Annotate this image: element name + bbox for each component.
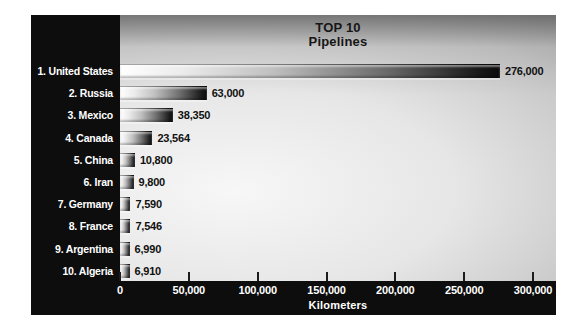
bar-chart: TOP 10 Pipelines 1. United States276,000…	[31, 15, 556, 315]
x-tick-label: 300,000	[514, 284, 552, 296]
bar	[120, 153, 135, 167]
x-tick-label: 50,000	[173, 284, 205, 296]
row-label: 3. Mexico	[31, 109, 120, 121]
bar-row: 3. Mexico38,350	[31, 104, 556, 126]
bar-row: 9. Argentina6,990	[31, 238, 556, 260]
value-label: 7,546	[135, 220, 162, 232]
value-label: 6,990	[135, 243, 162, 255]
value-label: 38,350	[178, 109, 210, 121]
bar	[120, 86, 207, 100]
x-tick-label: 150,000	[307, 284, 345, 296]
x-tick-mark	[463, 272, 465, 281]
row-label: 5. China	[31, 154, 120, 166]
row-label: 2. Russia	[31, 87, 120, 99]
bar-rows: 1. United States276,0002. Russia63,0003.…	[31, 60, 556, 282]
x-axis-label: Kilometers	[309, 299, 368, 311]
bar	[120, 108, 173, 122]
chart-title: TOP 10	[120, 21, 556, 35]
bar	[120, 219, 130, 233]
x-tick-mark	[326, 272, 328, 281]
x-tick-mark	[188, 272, 190, 281]
value-label: 276,000	[505, 65, 543, 77]
bar-row: 4. Canada23,564	[31, 127, 556, 149]
x-tick-label: 250,000	[445, 284, 483, 296]
bar-row: 1. United States276,000	[31, 60, 556, 82]
row-label: 6. Iran	[31, 176, 120, 188]
bar	[120, 64, 500, 78]
x-tick-mark	[119, 272, 121, 281]
row-label: 7. Germany	[31, 198, 120, 210]
bar	[120, 197, 130, 211]
row-label: 8. France	[31, 220, 120, 232]
value-label: 9,800	[139, 176, 166, 188]
bar	[120, 264, 130, 278]
bar-row: 7. Germany7,590	[31, 193, 556, 215]
x-tick-label: 200,000	[376, 284, 414, 296]
chart-subtitle: Pipelines	[120, 35, 556, 49]
x-tick-mark	[257, 272, 259, 281]
row-label: 9. Argentina	[31, 243, 120, 255]
value-label: 7,590	[135, 198, 162, 210]
bar-row: 10. Algeria6,910	[31, 260, 556, 282]
x-tick-mark	[532, 272, 534, 281]
row-label: 10. Algeria	[31, 265, 120, 277]
row-label: 1. United States	[31, 65, 120, 77]
x-tick-label: 0	[117, 284, 123, 296]
chart-title-block: TOP 10 Pipelines	[120, 21, 556, 49]
value-label: 23,564	[157, 132, 189, 144]
bar	[120, 242, 130, 256]
value-label: 6,910	[135, 265, 162, 277]
bar-row: 5. China10,800	[31, 149, 556, 171]
bar-row: 6. Iran9,800	[31, 171, 556, 193]
bar-row: 2. Russia63,000	[31, 82, 556, 104]
bar	[120, 175, 134, 189]
x-tick-label: 100,000	[239, 284, 277, 296]
bar	[120, 131, 152, 145]
value-label: 63,000	[212, 87, 244, 99]
bar-row: 8. France7,546	[31, 215, 556, 237]
x-tick-mark	[394, 272, 396, 281]
value-label: 10,800	[140, 154, 172, 166]
page: { "colors": { "frame": "#0d0d0d", "bar_s…	[0, 0, 586, 336]
row-label: 4. Canada	[31, 132, 120, 144]
